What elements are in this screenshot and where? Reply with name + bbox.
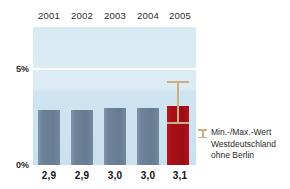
bar-2004 xyxy=(137,108,159,166)
bar-value-labels: 2,9 2,9 3,0 3,0 3,1 xyxy=(33,170,196,184)
error-bar-cap-max xyxy=(167,81,189,83)
value-label-2002: 2,9 xyxy=(66,170,98,181)
chart-legend: Min.-/Max.-Wert Westdeutschland ohne Ber… xyxy=(198,127,288,162)
error-bar-stem xyxy=(177,81,179,124)
error-bar-2005 xyxy=(167,81,189,124)
error-bar-icon xyxy=(198,129,207,138)
y-axis-tick-0-percent: 0% xyxy=(3,160,29,170)
bar-2001 xyxy=(38,110,60,166)
legend-line-2: Westdeutschland xyxy=(211,139,288,151)
bar-chart: 2001 2002 2003 2004 2005 5% 0% 2,9 2,9 3… xyxy=(0,0,290,189)
plot-area xyxy=(33,27,196,166)
x-axis-label-2003: 2003 xyxy=(99,10,131,21)
value-label-2004: 3,0 xyxy=(132,170,164,181)
error-bar-icon-cap-top xyxy=(198,129,207,131)
legend-line-1: Min.-/Max.-Wert xyxy=(211,127,288,139)
axis-baseline xyxy=(33,165,196,167)
legend-text: Min.-/Max.-Wert Westdeutschland ohne Ber… xyxy=(211,127,288,162)
value-label-2001: 2,9 xyxy=(33,170,65,181)
value-label-2005: 3,1 xyxy=(164,170,196,181)
x-axis-year-labels: 2001 2002 2003 2004 2005 xyxy=(33,10,196,24)
bar-2003 xyxy=(104,108,126,166)
y-axis-tick-5-percent: 5% xyxy=(3,64,29,74)
value-label-2003: 3,0 xyxy=(99,170,131,181)
gridline-5-percent xyxy=(33,68,196,70)
bar-2002 xyxy=(71,110,93,166)
x-axis-label-2001: 2001 xyxy=(33,10,65,21)
error-bar-cap-min xyxy=(167,122,189,124)
error-bar-icon-cap-bottom xyxy=(198,137,207,139)
x-axis-label-2004: 2004 xyxy=(132,10,164,21)
x-axis-label-2002: 2002 xyxy=(66,10,98,21)
x-axis-label-2005: 2005 xyxy=(164,10,196,21)
legend-line-3: ohne Berlin xyxy=(211,150,288,162)
